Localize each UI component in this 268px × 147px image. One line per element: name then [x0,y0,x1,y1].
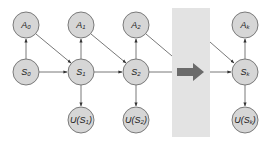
svg-text:U(Sk): U(Sk) [234,115,256,125]
node-ak: Ak [232,12,258,38]
svg-text:U(S2): U(S2) [125,115,147,125]
decision-network-diagram: A0 S0 A1 S1 U(S1) A2 S2 U(S2) Ak Sk U(Sk… [0,0,268,147]
node-usk: U(Sk) [232,107,258,133]
node-us2: U(S2) [123,107,149,133]
node-us1: U(S1) [68,107,94,133]
node-s1: S1 [68,59,94,85]
edge-a1-s2 [91,34,126,63]
edge-a0-s1 [36,34,71,63]
node-sk: Sk [232,59,258,85]
node-a2: A2 [123,12,149,38]
node-s2: S2 [123,59,149,85]
node-a1: A1 [68,12,94,38]
node-a0: A0 [13,12,39,38]
node-s0: S0 [13,59,39,85]
edge-a2-out [146,34,172,56]
edge-in-sk-diag [210,42,234,63]
svg-text:U(S1): U(S1) [70,115,92,125]
